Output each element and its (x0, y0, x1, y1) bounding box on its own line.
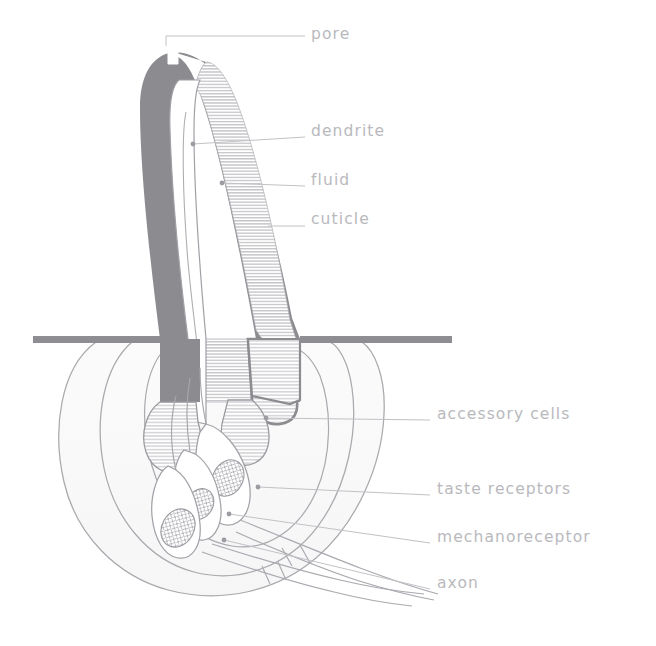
label-dendrite: dendrite (311, 124, 385, 140)
label-fluid: fluid (311, 173, 350, 189)
label-cuticle: cuticle (311, 212, 370, 228)
leader-dot-fluid (220, 181, 225, 186)
leader-dot-dendrite (191, 142, 196, 147)
label-pore: pore (311, 27, 350, 43)
label-mechanoreceptor: mechanoreceptor (437, 530, 591, 546)
diagram-canvas: pore dendrite fluid cuticle accessory ce… (0, 0, 656, 646)
label-taste-receptors: taste receptors (437, 482, 571, 498)
label-accessory-cells: accessory cells (437, 407, 570, 423)
leader-dot-mechanoreceptor (227, 512, 232, 517)
socket-base-bar (248, 339, 300, 404)
fluid-lumen (192, 62, 296, 339)
pore (168, 50, 178, 64)
sensillum-diagram (0, 0, 656, 646)
leader-dot-taste-receptors (256, 485, 261, 490)
leader-dot-axon (222, 538, 227, 543)
cuticle-socket-left (160, 339, 200, 402)
leader-dot-accessory-cells (264, 416, 269, 421)
leader-pore (166, 36, 305, 46)
label-axon: axon (437, 576, 479, 592)
